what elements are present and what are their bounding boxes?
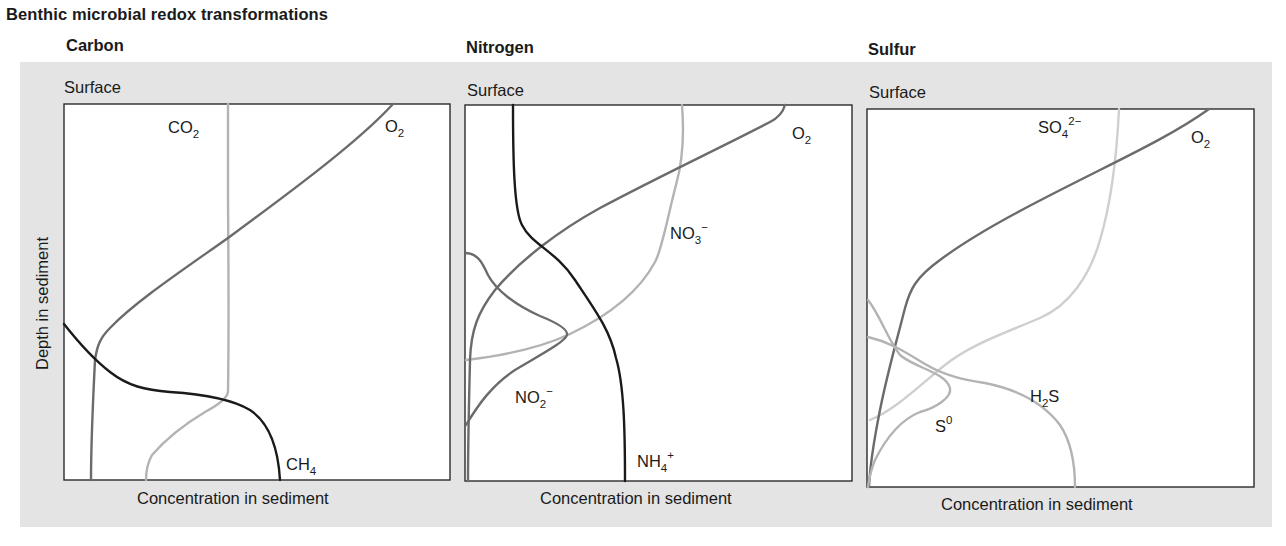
panel-carbon: Surface CO2 O2 CH4 Concentration in sedi… — [64, 78, 450, 507]
surface-label: Surface — [869, 83, 926, 101]
panel-sulfur: Surface SO42− O2 H2S S0 Concentration in… — [867, 83, 1254, 513]
panel-nitrogen: Surface O2 NO3− NO2− NH4+ Concentration … — [465, 81, 852, 507]
y-axis-label: Depth in sediment — [33, 237, 51, 370]
x-axis-label: Concentration in sediment — [941, 495, 1133, 513]
surface-label: Surface — [64, 78, 121, 96]
plot-frame — [465, 105, 852, 481]
plot-frame — [64, 104, 450, 480]
plot-frame — [867, 109, 1254, 487]
diagram-canvas: Depth in sediment Surface CO2 O2 CH4 Con… — [0, 0, 1286, 546]
surface-label: Surface — [467, 81, 524, 99]
x-axis-label: Concentration in sediment — [540, 489, 732, 507]
x-axis-label: Concentration in sediment — [137, 489, 329, 507]
